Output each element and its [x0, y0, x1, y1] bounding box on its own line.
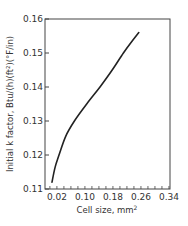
chart: 0.110.120.130.140.150.16 0.020.100.180.2… — [0, 0, 188, 226]
x-axis-label: Cell size, mm2 — [77, 204, 138, 215]
x-tick-label: 0.26 — [131, 192, 151, 202]
y-tick-label: 0.15 — [23, 48, 43, 58]
x-tick-label: 0.18 — [103, 192, 123, 202]
y-tick-label: 0.14 — [23, 82, 43, 92]
y-tick-label: 0.12 — [23, 150, 43, 160]
y-tick-label: 0.11 — [23, 184, 43, 194]
x-tick-label: 0.10 — [75, 192, 95, 202]
x-tick-label: 0.34 — [159, 192, 179, 202]
plot-frame — [45, 19, 170, 189]
x-tick-label: 0.02 — [47, 192, 67, 202]
y-tick-label: 0.13 — [23, 116, 43, 126]
data-curve — [52, 33, 139, 183]
x-axis-ticks: 0.020.100.180.260.34 — [47, 192, 179, 202]
y-tick-label: 0.16 — [23, 14, 43, 24]
y-axis-label: Initial k factor, Btu/(h)(ft²)(°F/in) — [5, 36, 15, 172]
